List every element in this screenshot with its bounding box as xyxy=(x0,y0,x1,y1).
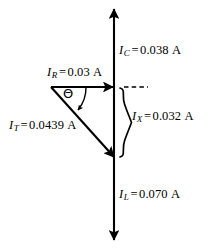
phasor-diagram-canvas: IC=0.038 A IR=0.03 A IX=0.032 A IT=0.043… xyxy=(0,0,213,249)
label-il-unit: A xyxy=(171,187,180,201)
label-ic-value: 0.038 xyxy=(140,43,169,57)
label-ic-unit: A xyxy=(172,43,181,57)
label-il-value: 0.070 xyxy=(139,187,168,201)
label-ix-equals: = xyxy=(142,109,152,123)
label-ic-subscript: C xyxy=(123,48,130,58)
label-phase-angle: Θ xyxy=(63,86,73,101)
label-il-equals: = xyxy=(129,187,139,201)
label-ic-equals: = xyxy=(130,43,140,57)
label-ir-unit: A xyxy=(93,65,102,79)
label-current-total: IT=0.0439 A xyxy=(9,119,76,133)
label-it-unit: A xyxy=(67,118,76,132)
label-it-equals: = xyxy=(19,118,29,132)
label-current-reactive: IX=0.032 A xyxy=(132,110,194,124)
angle-theta-arc xyxy=(78,87,86,110)
label-current-capacitive: IC=0.038 A xyxy=(119,44,181,58)
label-ir-value: 0.03 xyxy=(68,65,90,79)
label-it-value: 0.0439 xyxy=(29,118,64,132)
brace-ix xyxy=(120,88,132,157)
label-current-resistive: IR=0.03 A xyxy=(47,66,102,80)
label-ix-unit: A xyxy=(184,109,193,123)
label-current-inductive: IL=0.070 A xyxy=(119,188,180,202)
label-ix-value: 0.032 xyxy=(153,109,182,123)
label-ir-equals: = xyxy=(57,65,67,79)
